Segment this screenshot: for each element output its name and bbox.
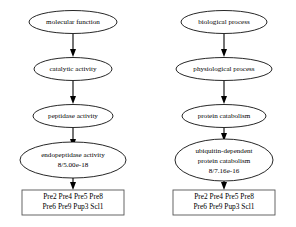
node-molecular-function-label: molecular function [46, 18, 100, 26]
node-endopeptidase-activity-stat: 8/5.00e-18 [58, 161, 89, 169]
node-ubiquitin-label-line-2: protein catabolism [198, 157, 251, 165]
gene-box-line-2: Pre6 Pre9 Pup3 Scl1 [194, 202, 255, 211]
node-physiological-process-label: physiological process [193, 65, 255, 73]
gene-box-line-1: Pre2 Pre4 Pre5 Pre8 [194, 192, 254, 201]
edge-mf-catalytic-to-peptidase [70, 81, 76, 104]
edge-mf-endopeptidase-to-genes [70, 178, 76, 190]
node-biological-process[interactable]: biological process [181, 11, 267, 34]
gene-box-line-2: Pre6 Pre9 Pup3 Scl1 [43, 202, 104, 211]
edge-bp-physiological-to-catabolism [221, 81, 227, 104]
gene-box-biological-process[interactable]: Pre2 Pre4 Pre5 Pre8 Pre6 Pre9 Pup3 Scl1 [173, 190, 275, 215]
node-catalytic-activity-label: catalytic activity [49, 65, 97, 73]
edge-mf-root-to-catalytic [70, 34, 76, 57]
node-ubiquitin-dependent-protein-catabolism[interactable]: ubiquitin-dependent protein catabolism 8… [175, 139, 273, 181]
node-molecular-function[interactable]: molecular function [29, 11, 117, 34]
branch-molecular-function: molecular function catalytic activity pe… [20, 11, 126, 216]
node-ubiquitin-stat: 8/7.16e-16 [209, 167, 240, 175]
node-catalytic-activity[interactable]: catalytic activity [34, 58, 112, 81]
node-ubiquitin-label-line-1: ubiquitin-dependent [195, 147, 252, 155]
gene-box-molecular-function[interactable]: Pre2 Pre4 Pre5 Pre8 Pre6 Pre9 Pup3 Scl1 [22, 190, 124, 215]
edge-bp-root-to-physiological [221, 34, 227, 57]
node-physiological-process[interactable]: physiological process [176, 58, 272, 81]
gene-box-line-1: Pre2 Pre4 Pre5 Pre8 [43, 192, 103, 201]
branch-biological-process: biological process physiological process… [173, 11, 275, 216]
node-peptidase-activity-label: peptidase activity [48, 112, 98, 120]
node-protein-catabolism-label: protein catabolism [198, 112, 251, 120]
node-protein-catabolism[interactable]: protein catabolism [182, 105, 266, 128]
node-biological-process-label: biological process [198, 18, 250, 26]
diagram-canvas: molecular function catalytic activity pe… [0, 0, 296, 227]
go-hierarchy-graph: molecular function catalytic activity pe… [0, 0, 296, 227]
node-endopeptidase-activity[interactable]: endopeptidase activity 8/5.00e-18 [20, 142, 126, 178]
node-peptidase-activity[interactable]: peptidase activity [33, 105, 113, 128]
node-endopeptidase-activity-label: endopeptidase activity [41, 151, 105, 159]
edge-bp-ubiquitin-to-genes [221, 180, 227, 190]
